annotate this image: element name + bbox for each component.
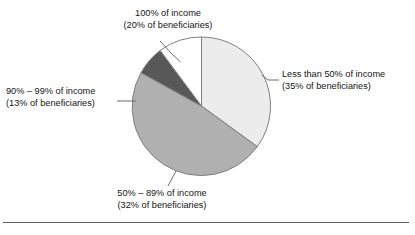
leader-line-50-to-89: [168, 171, 176, 186]
callout-label-100: 100% of income (20% of beneficiaries): [104, 8, 232, 31]
callout-100-line2: (20% of beneficiaries): [104, 20, 232, 32]
callout-90-to-99-line1: 90% – 99% of income: [6, 86, 95, 96]
callout-label-less-than-50: Less than 50% of income (35% of benefici…: [282, 69, 414, 92]
callout-label-90-to-99: 90% – 99% of income (13% of beneficiarie…: [6, 86, 130, 109]
callout-label-50-to-89: 50% – 89% of income (32% of beneficiarie…: [86, 188, 238, 211]
callout-50-to-89-line1: 50% – 89% of income: [117, 188, 206, 198]
callout-100-line1: 100% of income: [135, 8, 201, 18]
callout-50-to-89-line2: (32% of beneficiaries): [86, 200, 238, 212]
callout-less-than-50-line1: Less than 50% of income: [282, 69, 385, 79]
pie-chart-figure: 100% of income (20% of beneficiaries) Le…: [0, 0, 415, 235]
bottom-divider-rule: [3, 222, 409, 223]
callout-less-than-50-line2: (35% of beneficiaries): [282, 81, 414, 93]
callout-90-to-99-line2: (13% of beneficiaries): [6, 98, 130, 110]
